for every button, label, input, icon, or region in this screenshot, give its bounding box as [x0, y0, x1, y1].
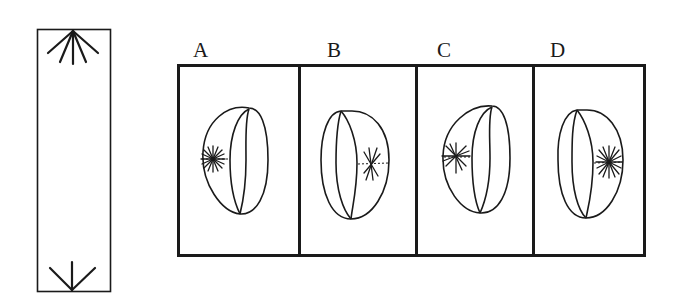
fan-burst-icon: [48, 31, 98, 64]
option-label-d: D: [550, 40, 565, 61]
options-frame: [179, 65, 645, 256]
arrow-converge-icon: [50, 262, 95, 290]
dashed-axis: [358, 163, 389, 164]
puzzle-figure: [0, 0, 683, 304]
stem-strip: [38, 30, 111, 292]
option-label-b: B: [327, 40, 341, 61]
option-b[interactable]: [321, 111, 389, 219]
option-label-a: A: [193, 40, 208, 61]
star-burst-icon: [442, 143, 470, 173]
option-c[interactable]: [442, 106, 510, 213]
star-burst-icon: [201, 146, 225, 172]
option-label-c: C: [437, 40, 451, 61]
ring-icon: [321, 111, 389, 219]
option-a[interactable]: [201, 107, 268, 214]
option-d[interactable]: [558, 110, 623, 218]
